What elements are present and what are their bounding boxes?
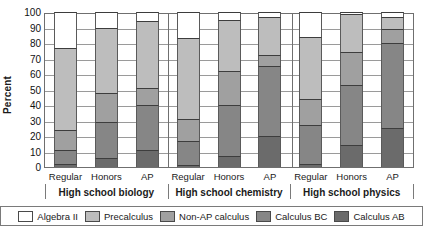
- bar-segment[interactable]: [136, 88, 159, 105]
- legend-label: Calculus AB: [353, 211, 404, 222]
- bar-segment[interactable]: [340, 145, 363, 167]
- stacked-bar[interactable]: [54, 14, 77, 167]
- y-axis-tick-labels: 1009080706050403020100: [0, 13, 41, 168]
- bar-segment[interactable]: [258, 66, 281, 136]
- bar-segment[interactable]: [381, 12, 404, 17]
- bar-segment[interactable]: [258, 12, 281, 17]
- bar-segment[interactable]: [340, 85, 363, 145]
- legend-item[interactable]: Calculus AB: [334, 211, 404, 222]
- chart-legend: Algebra IIPrecalculusNon-AP calculusCalc…: [0, 206, 423, 226]
- category-label-group: RegularHonorsAP: [290, 170, 413, 184]
- legend-item[interactable]: Algebra II: [18, 211, 78, 222]
- bar-segment[interactable]: [54, 48, 77, 130]
- group-label-separator: [168, 184, 169, 199]
- legend-item[interactable]: Non-AP calculus: [160, 211, 249, 222]
- bar-group: [168, 14, 291, 167]
- stacked-bar[interactable]: [258, 14, 281, 167]
- y-tick-40: 40: [1, 101, 41, 111]
- bar-segment[interactable]: [136, 105, 159, 150]
- legend-label: Precalculus: [104, 211, 153, 222]
- bar-segment[interactable]: [95, 93, 118, 122]
- legend-item[interactable]: Precalculus: [85, 211, 153, 222]
- bar-segment[interactable]: [381, 29, 404, 43]
- bar-segment[interactable]: [218, 156, 241, 167]
- bar-segment[interactable]: [177, 119, 200, 141]
- category-label: Honors: [332, 170, 372, 184]
- stacked-bar[interactable]: [299, 14, 322, 167]
- y-tick-30: 30: [1, 117, 41, 127]
- category-label: Regular: [291, 170, 331, 184]
- legend-swatch: [334, 211, 349, 222]
- legend-swatch: [18, 211, 33, 222]
- bar-segment[interactable]: [95, 122, 118, 158]
- category-label-group: RegularHonorsAP: [168, 170, 291, 184]
- y-tick-90: 90: [1, 24, 41, 34]
- category-labels: RegularHonorsAPRegularHonorsAPRegularHon…: [45, 170, 413, 184]
- y-tick-60: 60: [1, 70, 41, 80]
- group-label-separator: [45, 184, 46, 199]
- bar-segment[interactable]: [381, 43, 404, 128]
- bar-segment[interactable]: [299, 12, 322, 37]
- stacked-bar[interactable]: [381, 14, 404, 167]
- legend-label: Calculus BC: [275, 211, 327, 222]
- y-tick-0: 0: [1, 163, 41, 173]
- group-label: High school physics: [290, 186, 413, 200]
- bar-segment[interactable]: [54, 150, 77, 164]
- y-tick-10: 10: [1, 148, 41, 158]
- category-label: Regular: [168, 170, 208, 184]
- stacked-bar[interactable]: [136, 14, 159, 167]
- legend-label: Non-AP calculus: [179, 211, 249, 222]
- bar-segment[interactable]: [258, 55, 281, 66]
- category-label-group: RegularHonorsAP: [45, 170, 168, 184]
- stacked-bar[interactable]: [177, 14, 200, 167]
- legend-swatch: [85, 211, 100, 222]
- stacked-bar[interactable]: [95, 14, 118, 167]
- bar-segment[interactable]: [381, 17, 404, 29]
- bar-segment[interactable]: [218, 105, 241, 156]
- bar-segment[interactable]: [136, 150, 159, 167]
- bar-segment[interactable]: [299, 37, 322, 99]
- bar-segment[interactable]: [218, 12, 241, 20]
- legend-item[interactable]: Calculus BC: [256, 211, 327, 222]
- y-tick-50: 50: [1, 86, 41, 96]
- category-label: AP: [373, 170, 413, 184]
- bar-segment[interactable]: [177, 12, 200, 38]
- stacked-bar-chart: Percent 1009080706050403020100 RegularHo…: [0, 0, 423, 228]
- y-tick-20: 20: [1, 132, 41, 142]
- bar-segment[interactable]: [381, 128, 404, 167]
- bar-segment[interactable]: [299, 125, 322, 164]
- bar-segment[interactable]: [177, 141, 200, 166]
- bar-segment[interactable]: [299, 99, 322, 125]
- bar-segment[interactable]: [54, 164, 77, 167]
- y-tick-80: 80: [1, 39, 41, 49]
- bar-segment[interactable]: [340, 14, 363, 53]
- group-label: High school chemistry: [168, 186, 291, 200]
- bar-segment[interactable]: [340, 12, 363, 14]
- y-tick-70: 70: [1, 55, 41, 65]
- bar-segment[interactable]: [54, 130, 77, 150]
- bar-segment[interactable]: [218, 20, 241, 71]
- bar-segment[interactable]: [299, 164, 322, 167]
- y-tick-100: 100: [1, 8, 41, 18]
- bar-segment[interactable]: [95, 12, 118, 28]
- legend-swatch: [160, 211, 175, 222]
- stacked-bar[interactable]: [218, 14, 241, 167]
- group-labels: High school biologyHigh school chemistry…: [45, 186, 413, 200]
- bar-segment[interactable]: [54, 12, 77, 48]
- category-label: AP: [127, 170, 167, 184]
- group-label: High school biology: [45, 186, 168, 200]
- bar-segment[interactable]: [258, 17, 281, 56]
- bar-group: [45, 14, 168, 167]
- group-label-separator: [290, 184, 291, 199]
- bar-segment[interactable]: [95, 158, 118, 167]
- bar-segment[interactable]: [218, 71, 241, 105]
- bar-segment[interactable]: [95, 28, 118, 93]
- bar-segment[interactable]: [340, 52, 363, 85]
- bar-segment[interactable]: [136, 12, 159, 21]
- bar-segment[interactable]: [136, 21, 159, 88]
- stacked-bar[interactable]: [340, 14, 363, 167]
- bar-segment[interactable]: [177, 165, 200, 167]
- bar-segment[interactable]: [177, 38, 200, 119]
- bar-segment[interactable]: [258, 136, 281, 167]
- category-label: AP: [250, 170, 290, 184]
